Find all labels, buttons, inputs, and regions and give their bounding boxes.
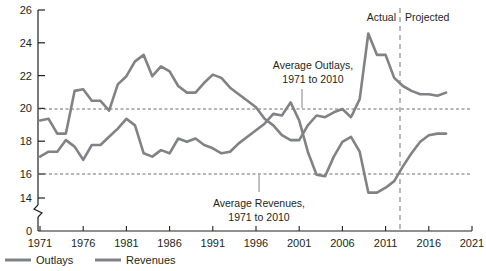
average-revenues-annotation-line2: 1971 to 2010 (228, 211, 289, 223)
x-tick-label-2021: 2021 (460, 237, 484, 249)
y-tick-label-26: 26 (20, 4, 32, 16)
x-tick-label-1986: 1986 (157, 237, 181, 249)
average-revenues-annotation-line1: Average Revenues, (213, 197, 305, 209)
average-outlays-annotation-line2: 1971 to 2010 (282, 73, 343, 85)
y-tick-label-24: 24 (20, 37, 32, 49)
x-tick-label-2011: 2011 (374, 237, 398, 249)
average-outlays-annotation-line1: Average Outlays, (273, 59, 353, 71)
y-tick-label-zero: 0 (26, 225, 32, 237)
x-tick-label-2006: 2006 (330, 237, 354, 249)
x-tick-label-1996: 1996 (244, 237, 268, 249)
budget-line-chart: 26 24 22 20 18 16 14 0 1971 1976 1981 19… (0, 0, 486, 271)
chart-container: 26 24 22 20 18 16 14 0 1971 1976 1981 19… (0, 0, 486, 271)
x-tick-label-1971: 1971 (28, 237, 52, 249)
y-tick-label-18: 18 (20, 135, 32, 147)
x-tick-label-2001: 2001 (287, 237, 311, 249)
x-tick-label-1981: 1981 (114, 237, 138, 249)
projected-label: Projected (405, 11, 450, 23)
y-tick-label-22: 22 (20, 70, 32, 82)
x-tick-label-2016: 2016 (417, 237, 441, 249)
y-tick-label-20: 20 (20, 102, 32, 114)
chart-background (0, 0, 486, 271)
actual-label: Actual (367, 11, 396, 23)
x-tick-label-1976: 1976 (71, 237, 95, 249)
y-tick-label-16: 16 (20, 168, 32, 180)
x-tick-label-1991: 1991 (201, 237, 225, 249)
y-tick-label-14: 14 (20, 192, 32, 204)
legend-label-revenues: Revenues (126, 254, 176, 266)
legend-label-outlays: Outlays (36, 254, 74, 266)
